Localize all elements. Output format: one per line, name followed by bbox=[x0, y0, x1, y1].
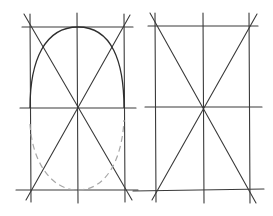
sketch-canvas bbox=[0, 0, 273, 216]
right-panel bbox=[133, 13, 264, 203]
left-panel bbox=[16, 13, 138, 203]
right-vertical-line bbox=[249, 13, 250, 203]
dashed-lower-ellipse bbox=[30, 120, 124, 190]
bottom-horizontal-line bbox=[133, 189, 264, 191]
